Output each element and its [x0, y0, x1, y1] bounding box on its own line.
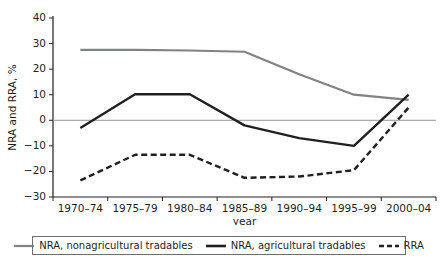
legend-label-rra: RRA [404, 241, 424, 251]
y-axis-tick-label: −10 [24, 139, 46, 151]
line-chart-svg: 403020100−10−20−30 1970–741975–791980–84… [0, 0, 444, 225]
y-axis-tick-label: −20 [24, 164, 46, 176]
y-axis-title: NRA and RRA, % [6, 64, 18, 150]
series-line [80, 50, 408, 100]
legend-item-rra: RRA [379, 241, 424, 251]
x-axis-tick-label: 1985–89 [222, 202, 267, 214]
x-axis-tick-label: 1995–99 [331, 202, 376, 214]
legend-item-nra-nonagricultural: NRA, nonagricultural tradables [14, 241, 193, 251]
legend-item-nra-agricultural: NRA, agricultural tradables [206, 241, 366, 251]
x-axis-tick-label: 1975–79 [112, 202, 157, 214]
y-axis-tick-label: 10 [33, 88, 46, 100]
x-axis-title: year [233, 215, 257, 225]
y-axis-tick-label: 20 [33, 62, 46, 74]
y-axis-tick-label: 30 [33, 37, 46, 49]
series-line [80, 108, 408, 181]
plot-area: 403020100−10−20−30 1970–741975–791980–84… [0, 0, 444, 225]
legend-label-nra-agricultural: NRA, agricultural tradables [231, 241, 366, 251]
y-axis-tick-label: 40 [33, 11, 46, 23]
line-solid-gray-icon [14, 241, 34, 251]
x-axis-tick-label: 1970–74 [58, 202, 104, 214]
legend-label-nra-nonagricultural: NRA, nonagricultural tradables [39, 241, 193, 251]
series-group [80, 50, 408, 180]
line-dashed-black-icon [379, 241, 399, 251]
y-axis-tick-label: −30 [24, 190, 46, 202]
x-axis-tick-label: 1980–84 [167, 202, 213, 214]
y-axis-tick-label: 0 [39, 113, 46, 125]
x-axis-tick-label: 2000–04 [386, 202, 432, 214]
chart-legend: NRA, nonagricultural tradables NRA, agri… [32, 236, 406, 255]
y-axis-tick-group: 403020100−10−20−30 [24, 11, 53, 202]
x-axis-tick-label: 1990–94 [277, 202, 323, 214]
chart-figure: 403020100−10−20−30 1970–741975–791980–84… [0, 0, 444, 260]
x-axis-tick-group: 1970–741975–791980–841985–891990–941995–… [53, 197, 436, 214]
axis-lines-group [53, 16, 436, 197]
line-solid-black-icon [206, 241, 226, 251]
